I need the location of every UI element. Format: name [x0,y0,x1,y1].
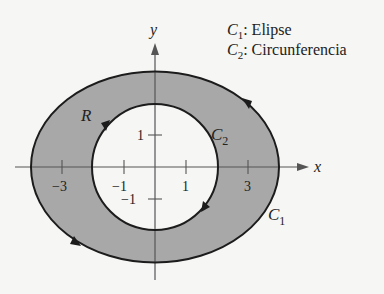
y-axis-label: y [148,21,158,39]
legend: C1: Elipse C2: Circunferencia [227,21,347,61]
legend-entry-ellipse: C1: Elipse [227,21,292,41]
ellipse-c1-label: C1 [268,205,285,228]
region-label: R [80,106,92,125]
x-tick-label: 3 [244,179,251,194]
y-axis-arrow-icon [151,43,159,55]
legend-entry-circle: C2: Circunferencia [227,41,347,61]
x-tick-label: 1 [182,179,189,194]
y-tick-label: −1 [121,192,136,207]
x-tick-label: −3 [52,179,67,194]
ellipse-circle-region-diagram: −3 −1 1 3 1 −1 x y R C2 C1 C1: Elipse C2… [0,0,384,294]
x-axis-label: x [313,158,321,175]
x-axis-arrow-icon [297,163,309,171]
y-tick-label: 1 [137,128,144,143]
